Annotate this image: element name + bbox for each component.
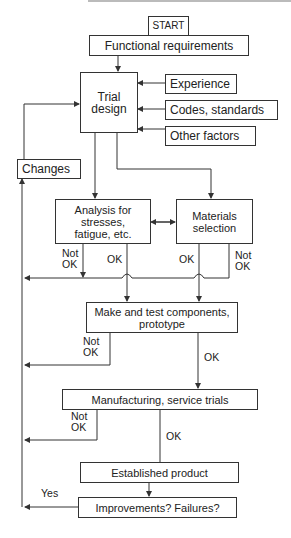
make-and-test-node: Make and test components, prototype <box>86 302 238 333</box>
analysis-node: Analysis for stresses, fatigue, etc. <box>55 199 151 244</box>
other-factors-label: Other factors <box>170 130 239 142</box>
materials-selection-label: Materials selection <box>185 210 244 234</box>
codes-standards-label: Codes, standards <box>170 104 264 116</box>
ok-label-manufacturing: OK <box>166 431 181 442</box>
trial-design-label: Trial design <box>87 91 131 115</box>
experience-label: Experience <box>170 78 230 90</box>
not-ok-label-materials: Not OK <box>235 250 257 272</box>
functional-requirements-label: Functional requirements <box>105 40 234 52</box>
ok-label-materials: OK <box>179 254 194 265</box>
functional-requirements-node: Functional requirements <box>89 35 249 56</box>
established-product-node: Established product <box>80 462 239 483</box>
established-product-label: Established product <box>111 467 208 479</box>
materials-selection-node: Materials selection <box>176 199 253 244</box>
codes-standards-node: Codes, standards <box>165 100 278 120</box>
start-label: START <box>153 20 185 32</box>
improvements-label: Improvements? Failures? <box>95 502 219 514</box>
trial-design-node: Trial design <box>80 72 138 133</box>
yes-label: Yes <box>41 488 58 499</box>
analysis-label: Analysis for stresses, fatigue, etc. <box>64 204 142 240</box>
manufacturing-label: Manufacturing, service trials <box>92 394 229 406</box>
improvements-node: Improvements? Failures? <box>78 497 237 518</box>
changes-label: Changes <box>22 163 70 175</box>
ok-label-make: OK <box>204 352 219 363</box>
experience-node: Experience <box>165 74 237 94</box>
start-node: START <box>148 16 189 36</box>
other-factors-node: Other factors <box>165 126 256 146</box>
changes-node: Changes <box>17 159 81 179</box>
not-ok-label-manufacturing: Not OK <box>71 411 93 433</box>
ok-label-analysis: OK <box>107 254 122 265</box>
not-ok-label-make: Not OK <box>83 336 105 358</box>
not-ok-label-analysis: Not OK <box>62 248 84 270</box>
manufacturing-node: Manufacturing, service trials <box>62 389 258 410</box>
make-and-test-label: Make and test components, prototype <box>93 306 231 330</box>
